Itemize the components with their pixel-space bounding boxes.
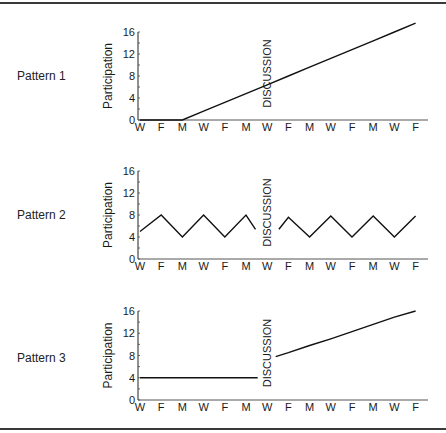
- x-tick-label: F: [412, 121, 419, 133]
- x-tick-label: M: [241, 121, 250, 133]
- chart-pattern-2: 0481216WFMWFMWFMWFMWFParticipationDISCUS…: [0, 139, 446, 284]
- x-tick-label: W: [135, 260, 146, 272]
- panel-pattern-3: Pattern 3 0481216WFMWFMWFMWFMWFParticipa…: [0, 279, 446, 424]
- x-tick-label: W: [262, 121, 273, 133]
- data-line: [279, 216, 416, 237]
- discussion-annotation: DISCUSSION: [261, 39, 273, 108]
- x-tick-label: F: [221, 121, 228, 133]
- x-tick-label: W: [326, 260, 337, 272]
- x-tick-label: F: [412, 401, 419, 413]
- x-tick-label: M: [305, 260, 314, 272]
- panel-pattern-1: Pattern 1 0481216WFMWFMWFMWFMWFParticipa…: [0, 0, 446, 145]
- y-tick-label: 8: [129, 209, 135, 221]
- y-tick-label: 12: [123, 187, 135, 199]
- x-tick-label: F: [158, 401, 165, 413]
- data-line: [276, 311, 416, 357]
- x-tick-label: W: [135, 121, 146, 133]
- x-tick-label: M: [305, 121, 314, 133]
- y-tick-label: 4: [129, 372, 135, 384]
- data-line: [140, 215, 256, 237]
- x-tick-label: F: [158, 121, 165, 133]
- y-tick-label: 4: [129, 92, 135, 104]
- y-axis-label: Participation: [101, 43, 115, 109]
- x-tick-label: M: [369, 260, 378, 272]
- x-tick-label: F: [412, 260, 419, 272]
- y-tick-label: 16: [123, 165, 135, 177]
- x-tick-label: W: [326, 401, 337, 413]
- x-tick-label: W: [262, 260, 273, 272]
- bottom-rule: [0, 428, 446, 430]
- y-tick-label: 12: [123, 327, 135, 339]
- x-tick-label: F: [221, 401, 228, 413]
- panel-pattern-2: Pattern 2 0481216WFMWFMWFMWFMWFParticipa…: [0, 139, 446, 284]
- x-tick-label: F: [285, 260, 292, 272]
- x-tick-label: M: [369, 121, 378, 133]
- x-tick-label: F: [349, 401, 356, 413]
- x-tick-label: M: [178, 121, 187, 133]
- x-tick-label: M: [241, 260, 250, 272]
- x-tick-label: M: [369, 401, 378, 413]
- x-tick-label: M: [178, 401, 187, 413]
- discussion-annotation: DISCUSSION: [261, 319, 273, 388]
- y-tick-label: 12: [123, 48, 135, 60]
- y-axis-label: Participation: [101, 322, 115, 388]
- x-tick-label: M: [241, 401, 250, 413]
- x-tick-label: F: [158, 260, 165, 272]
- x-tick-label: F: [285, 121, 292, 133]
- y-tick-label: 16: [123, 26, 135, 38]
- x-tick-label: W: [389, 121, 400, 133]
- x-tick-label: W: [262, 401, 273, 413]
- x-tick-label: W: [198, 401, 209, 413]
- y-tick-label: 16: [123, 305, 135, 317]
- data-line: [140, 23, 416, 120]
- x-tick-label: F: [285, 401, 292, 413]
- chart-pattern-3: 0481216WFMWFMWFMWFMWFParticipationDISCUS…: [0, 279, 446, 424]
- x-tick-label: W: [135, 401, 146, 413]
- x-tick-label: M: [305, 401, 314, 413]
- chart-pattern-1: 0481216WFMWFMWFMWFMWFParticipationDISCUS…: [0, 0, 446, 145]
- x-tick-label: F: [221, 260, 228, 272]
- x-tick-label: W: [198, 260, 209, 272]
- y-tick-label: 4: [129, 231, 135, 243]
- x-tick-label: F: [349, 260, 356, 272]
- x-tick-label: W: [389, 260, 400, 272]
- y-tick-label: 8: [129, 350, 135, 362]
- discussion-annotation: DISCUSSION: [261, 178, 273, 247]
- x-tick-label: W: [326, 121, 337, 133]
- x-tick-label: W: [198, 121, 209, 133]
- x-tick-label: F: [349, 121, 356, 133]
- y-axis-label: Participation: [101, 182, 115, 248]
- y-tick-label: 8: [129, 70, 135, 82]
- x-tick-label: M: [178, 260, 187, 272]
- x-tick-label: W: [389, 401, 400, 413]
